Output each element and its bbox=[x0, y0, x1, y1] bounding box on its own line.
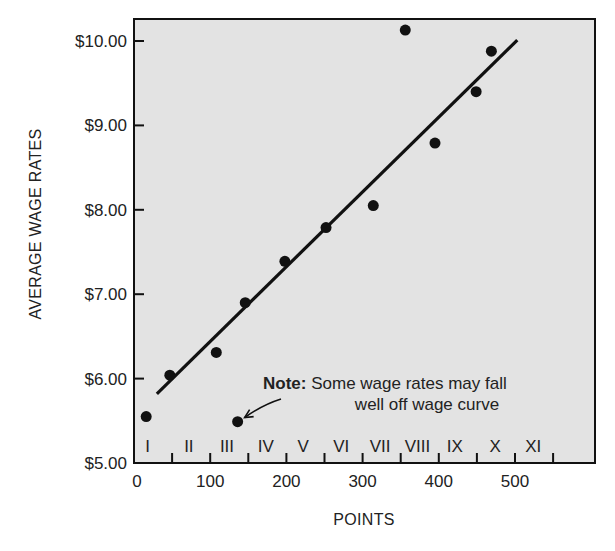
y-tick-label: $10.00 bbox=[75, 32, 127, 51]
pay-grade-label: II bbox=[184, 437, 193, 456]
pay-grade-label: VI bbox=[333, 437, 349, 456]
x-tick-label: 200 bbox=[272, 472, 300, 491]
pay-grade-label: X bbox=[490, 437, 501, 456]
note-bold-label: Note: bbox=[263, 374, 306, 393]
note-line-2: well off wage curve bbox=[354, 395, 499, 414]
data-point bbox=[368, 200, 379, 211]
y-axis-title: AVERAGE WAGE RATES bbox=[27, 129, 44, 320]
data-point bbox=[164, 370, 175, 381]
pay-grade-label: XI bbox=[525, 437, 541, 456]
pay-grade-label: VII bbox=[370, 437, 391, 456]
data-point bbox=[471, 86, 482, 97]
pay-grade-label: IX bbox=[447, 437, 463, 456]
y-tick-label: $5.00 bbox=[84, 454, 127, 473]
data-point bbox=[211, 347, 222, 358]
pay-grade-label: IV bbox=[258, 437, 275, 456]
data-point bbox=[400, 25, 411, 36]
pay-grade-label: III bbox=[220, 437, 234, 456]
x-tick-label: 100 bbox=[196, 472, 224, 491]
pay-grade-label: I bbox=[145, 437, 150, 456]
y-tick-label: $8.00 bbox=[84, 201, 127, 220]
pay-grade-label: V bbox=[297, 437, 309, 456]
data-point bbox=[141, 411, 152, 422]
x-tick-label: 0 bbox=[132, 472, 141, 491]
x-tick-label: 300 bbox=[348, 472, 376, 491]
chart-canvas: $5.00$6.00$7.00$8.00$9.00$10.00 01002003… bbox=[0, 0, 615, 551]
note-line-1: Note: Some wage rates may fall bbox=[263, 374, 507, 393]
data-point bbox=[321, 222, 332, 233]
data-point bbox=[232, 416, 243, 427]
data-point bbox=[279, 256, 290, 267]
pay-grade-label: VIII bbox=[405, 437, 431, 456]
data-point bbox=[240, 297, 251, 308]
y-tick-label: $9.00 bbox=[84, 116, 127, 135]
wage-curve-chart: $5.00$6.00$7.00$8.00$9.00$10.00 01002003… bbox=[0, 0, 615, 551]
data-point bbox=[486, 46, 497, 57]
x-tick-label: 500 bbox=[501, 472, 529, 491]
y-tick-label: $7.00 bbox=[84, 285, 127, 304]
x-axis-title: POINTS bbox=[333, 511, 394, 528]
y-tick-label: $6.00 bbox=[84, 370, 127, 389]
note-text-1: Some wage rates may fall bbox=[311, 374, 507, 393]
data-point bbox=[429, 138, 440, 149]
x-tick-label: 400 bbox=[425, 472, 453, 491]
